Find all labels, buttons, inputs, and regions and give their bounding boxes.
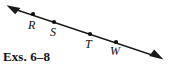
geometry-figure: R S T W Exs. 6–8 — [0, 0, 172, 71]
point-dot-t — [88, 32, 92, 36]
point-dot-r — [31, 12, 35, 16]
point-dot-s — [52, 20, 56, 24]
point-label-w: W — [110, 45, 120, 57]
point-label-r: R — [28, 19, 35, 31]
figure-caption: Exs. 6–8 — [3, 50, 50, 63]
point-label-t: T — [85, 38, 92, 50]
arrowhead-left-icon — [7, 5, 21, 14]
arrowhead-right-icon — [149, 50, 163, 60]
point-label-s: S — [50, 26, 56, 38]
